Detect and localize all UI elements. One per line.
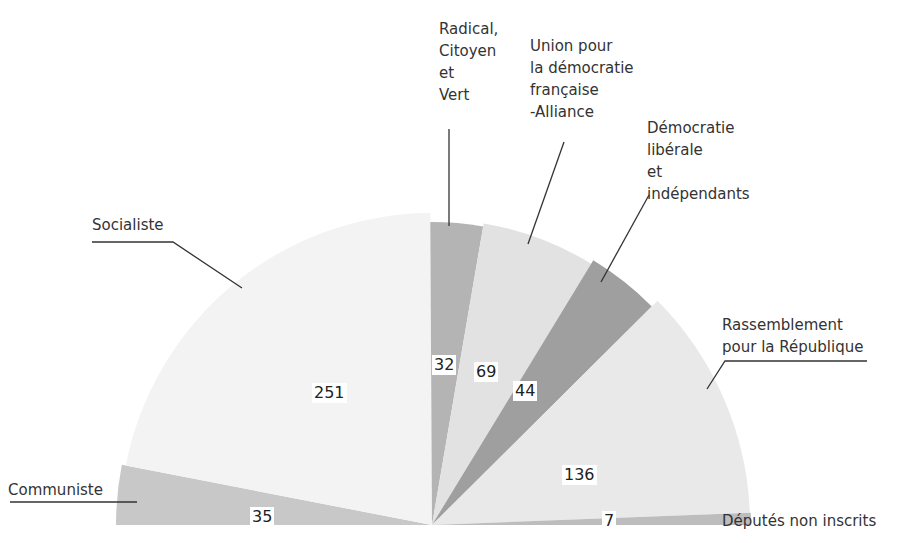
value-dl: 44 [513,381,537,401]
label-rpr: Rassemblement pour la République [722,314,863,358]
value-communiste: 35 [250,507,274,527]
value-rcv: 32 [432,355,456,375]
label-socialiste: Socialiste [92,214,164,236]
label-udf-alliance: Union pour la démocratie française -Alli… [530,35,634,123]
leader-line-rpr [707,361,867,389]
label-democratie-liberale: Démocratie libérale et indépendants [647,117,750,205]
leader-line-dl [601,195,649,282]
leader-line-socialiste [92,242,242,288]
value-socialiste: 251 [312,383,347,403]
label-radical-citoyen-vert: Radical, Citoyen et Vert [439,18,498,106]
value-rpr: 136 [562,465,597,485]
label-communiste: Communiste [8,479,103,501]
value-udf: 69 [474,362,498,382]
value-non-inscrits: 7 [602,511,616,531]
label-non-inscrits: Députés non inscrits [722,510,876,532]
leader-line-udf [528,142,564,244]
